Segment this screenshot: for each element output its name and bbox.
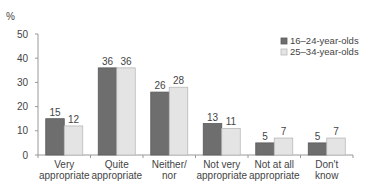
legend-swatch (281, 49, 287, 55)
x-category-label: Quite (105, 159, 129, 170)
bar-value-label: 7 (333, 126, 339, 137)
bar-value-label: 36 (102, 56, 114, 67)
bar-value-label: 15 (49, 107, 61, 118)
bar (151, 92, 170, 155)
x-category-label: appropriate (39, 170, 90, 181)
legend-swatch (281, 38, 287, 44)
x-category-label: appropriate (249, 170, 300, 181)
bar (327, 138, 346, 155)
x-category-label: appropriate (196, 170, 247, 181)
y-axis-label: % (6, 11, 15, 22)
bar (117, 68, 136, 155)
bar-value-label: 13 (207, 112, 219, 123)
y-tick-label: 40 (17, 53, 29, 64)
bar (256, 143, 275, 155)
y-tick-label: 0 (22, 150, 28, 161)
legend-label: 25–34-year-olds (290, 46, 359, 57)
x-category-label: nor (162, 170, 177, 181)
bar-value-label: 28 (173, 75, 185, 86)
x-category-label: Don't (315, 159, 338, 170)
y-tick-label: 50 (17, 29, 29, 40)
x-category-label: Not at all (255, 159, 294, 170)
bar (274, 138, 293, 155)
bar (308, 143, 327, 155)
bar-value-label: 5 (262, 131, 268, 142)
bar (222, 128, 241, 155)
x-category-label: appropriate (91, 170, 142, 181)
bar-value-label: 26 (154, 80, 166, 91)
bar-value-label: 5 (315, 131, 321, 142)
y-tick-label: 10 (17, 125, 29, 136)
x-category-label: Neither/ (152, 159, 187, 170)
bar (98, 68, 117, 155)
x-category-label: know (315, 170, 339, 181)
legend-label: 16–24-year-olds (290, 35, 359, 46)
x-category-label: Not very (203, 159, 240, 170)
y-tick-label: 20 (17, 101, 29, 112)
bar (203, 124, 222, 155)
bar (64, 126, 83, 155)
y-tick-label: 30 (17, 77, 29, 88)
bar (169, 87, 188, 155)
bar (46, 119, 65, 155)
bar-value-label: 11 (226, 116, 237, 127)
bar-chart: %010203040501512Veryappropriate3636Quite… (0, 0, 374, 188)
bar-value-label: 7 (281, 126, 287, 137)
x-category-label: Very (54, 159, 74, 170)
bar-value-label: 12 (68, 114, 80, 125)
bar-value-label: 36 (120, 56, 132, 67)
